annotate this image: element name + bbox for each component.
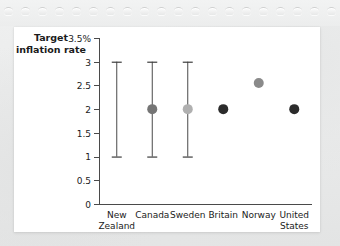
y-axis-tick-label: 0.5 [77, 176, 91, 186]
perforation-hole [327, 7, 336, 15]
chart-card: Target inflation rate 3.5%32.521.510.50N… [14, 27, 320, 232]
perforation-hole [140, 7, 149, 15]
y-axis-tick-label: 2 [85, 105, 91, 115]
perforation-hole [89, 7, 98, 15]
perforation-hole [225, 7, 234, 15]
perforation-hole [38, 7, 47, 15]
x-axis-category-label: Norway [242, 210, 277, 220]
perforation-hole [276, 7, 285, 15]
data-point-marker [254, 78, 264, 88]
plot-area: Target inflation rate 3.5%32.521.510.50N… [14, 27, 320, 232]
perforation-hole [174, 7, 183, 15]
perforation-hole [4, 7, 13, 15]
x-axis-category-label: Canada [135, 210, 169, 220]
scatter-chart-svg: 3.5%32.521.510.50NewZealandCanadaSwedenB… [14, 27, 320, 232]
perforation-hole [106, 7, 115, 15]
y-axis-tick-label: 2.5 [77, 81, 91, 91]
perforation-hole [293, 7, 302, 15]
x-axis-category-label: United [279, 210, 309, 220]
x-axis-category-label: Zealand [98, 221, 135, 231]
perforation-hole [259, 7, 268, 15]
x-axis-category-label: Sweden [170, 210, 206, 220]
y-axis-tick-label: 0 [85, 200, 91, 210]
data-point-marker [218, 104, 228, 114]
perforation-hole [191, 7, 200, 15]
perforation-hole [72, 7, 81, 15]
x-axis-category-label: Britain [208, 210, 238, 220]
y-axis-tick-label: 1.5 [77, 129, 91, 139]
x-axis-category-label: States [280, 221, 309, 231]
y-axis-tick-label: 3 [85, 58, 91, 68]
perforation-hole [310, 7, 319, 15]
perforation-hole [55, 7, 64, 15]
data-point-marker [147, 104, 157, 114]
screenshot-root: Target inflation rate 3.5%32.521.510.50N… [0, 0, 340, 246]
notepad-perforation-strip [0, 0, 340, 26]
perforation-hole [21, 7, 30, 15]
y-axis-tick-label: 1 [85, 152, 91, 162]
perforation-hole [157, 7, 166, 15]
data-point-marker [289, 104, 299, 114]
perforation-hole [208, 7, 217, 15]
data-point-marker [183, 104, 193, 114]
perforation-hole [242, 7, 251, 15]
x-axis-category-label: New [107, 210, 127, 220]
perforation-hole [123, 7, 132, 15]
y-axis-tick-label: 3.5% [68, 34, 91, 44]
